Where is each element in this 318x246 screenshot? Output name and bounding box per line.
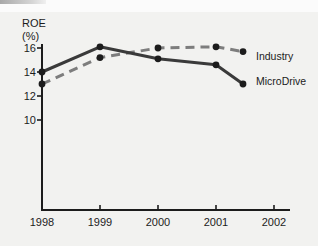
chart-plot-area [0,0,318,246]
data-point-microdrive-1998 [39,69,46,76]
data-point-industry-2001 [213,43,220,50]
data-point-microdrive-1999 [97,43,104,50]
data-point-industry-1998 [39,81,46,88]
data-point-industry-2000 [155,45,162,52]
data-point-industry-2002 [240,48,247,55]
roe-line-chart-figure: ROE (%) 16 14 12 10 1998 1999 2000 2001 … [0,0,318,246]
data-point-industry-1999 [97,54,104,61]
data-point-microdrive-2002 [240,81,247,88]
axis-lines [42,44,290,210]
data-point-microdrive-2000 [155,55,162,62]
data-point-microdrive-2001 [213,61,220,68]
